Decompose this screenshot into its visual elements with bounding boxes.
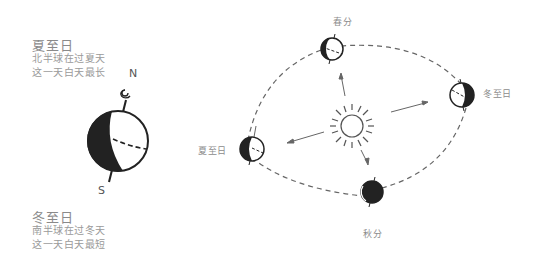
- arrow-icon: [365, 158, 369, 165]
- earth-spring-equinox-icon: [321, 34, 343, 64]
- earth-winter-solstice-icon: [450, 79, 474, 111]
- sun-icon: [330, 104, 374, 148]
- arrow-icon: [422, 101, 428, 105]
- arrow-icon: [287, 139, 294, 143]
- tilted-earth-icon: [87, 90, 148, 182]
- earth-autumn-equinox-icon: [361, 177, 383, 207]
- earth-summer-solstice-icon: [240, 126, 264, 165]
- diagram-canvas: [0, 0, 541, 261]
- arrow-icon: [339, 73, 343, 79]
